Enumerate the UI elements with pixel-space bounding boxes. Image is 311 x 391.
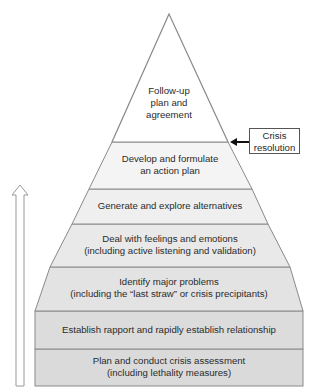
crisis-resolution-callout: Crisis resolution: [249, 128, 300, 154]
level-4-label: Deal with feelings and emotions (includi…: [60, 233, 280, 257]
callout-arrowhead-icon: [230, 138, 237, 146]
level-5-label: Identify major problems (including the “…: [40, 276, 298, 300]
level-2-label: Develop and formulate an action plan: [100, 153, 240, 177]
level-6-label: Establish rapport and rapidly establish …: [36, 324, 302, 336]
level-7-label: Plan and conduct crisis assessment (incl…: [36, 355, 302, 379]
level-1-apex: [112, 14, 228, 142]
level-1-label: Follow-up plan and agreement: [130, 85, 208, 121]
up-arrow-icon: [12, 185, 28, 386]
level-3-label: Generate and explore alternatives: [80, 200, 260, 212]
